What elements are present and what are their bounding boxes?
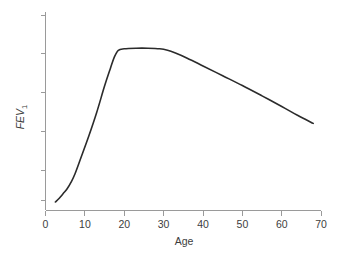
x-tick-label: 20 [118, 218, 130, 230]
x-tick-label: 10 [79, 218, 91, 230]
y-axis-title-subscript: 1 [20, 105, 29, 109]
x-tick-label: 40 [197, 218, 209, 230]
x-tick-label: 60 [276, 218, 288, 230]
x-axis-title: Age [175, 235, 194, 247]
y-axis-title-text: FEV [14, 108, 26, 129]
x-tick-label: 0 [43, 218, 49, 230]
chart-background [0, 0, 341, 254]
x-tick-label: 70 [315, 218, 327, 230]
chart-figure: 0 10 20 30 40 50 60 70 Age FEV1 [0, 0, 341, 254]
x-tick-label: 30 [158, 218, 170, 230]
x-tick-label: 50 [237, 218, 249, 230]
fev1-age-line-chart: 0 10 20 30 40 50 60 70 Age FEV1 [0, 0, 341, 254]
